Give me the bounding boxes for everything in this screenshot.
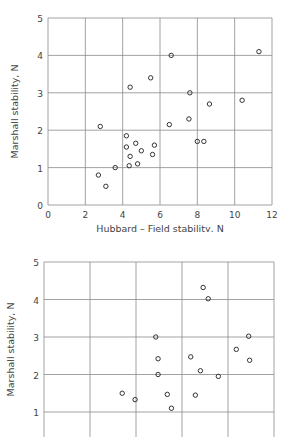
data-point (198, 369, 202, 373)
y-tick-label: 1 (37, 164, 43, 174)
data-point (169, 406, 173, 410)
data-point (152, 143, 156, 147)
data-point (240, 98, 244, 102)
x-tick-label: 0 (45, 210, 51, 220)
scatter-chart-marshall-bottom: 12345Marshall stability, N (0, 232, 296, 437)
x-tick-label: 6 (157, 210, 163, 220)
x-tick-label: 4 (120, 210, 126, 220)
data-point (187, 117, 191, 121)
y-tick-label: 3 (33, 333, 39, 343)
data-point (193, 393, 197, 397)
y-tick-label: 2 (33, 371, 39, 381)
y-tick-label: 5 (37, 14, 43, 24)
data-point (96, 173, 100, 177)
data-point (257, 49, 261, 53)
y-tick-label: 4 (37, 51, 43, 61)
data-point (247, 334, 251, 338)
data-point (104, 184, 108, 188)
data-point (128, 85, 132, 89)
x-tick-label: 12 (266, 210, 277, 220)
y-axis-label: Marshall stability, N (5, 303, 16, 397)
data-point (207, 102, 211, 106)
data-point (247, 358, 251, 362)
data-point (134, 141, 138, 145)
data-point (128, 154, 132, 158)
y-tick-label: 1 (33, 408, 39, 418)
y-tick-label: 2 (37, 126, 43, 136)
scatter-chart-hubbard-vs-marshall: 012345024681012Hubbard – Field stability… (0, 0, 296, 232)
y-axis-label: Marshall stability, N (9, 65, 20, 159)
x-axis-label: Hubbard – Field stability, N (96, 223, 224, 232)
data-point (139, 149, 143, 153)
y-tick-label: 0 (37, 201, 43, 211)
data-point (206, 297, 210, 301)
data-point (124, 145, 128, 149)
x-tick-label: 8 (194, 210, 200, 220)
y-tick-label: 5 (33, 258, 39, 268)
data-point (150, 152, 154, 156)
data-point (135, 162, 139, 166)
x-tick-label: 2 (82, 210, 88, 220)
x-tick-label: 10 (229, 210, 241, 220)
data-point (124, 134, 128, 138)
data-point (202, 139, 206, 143)
y-tick-label: 4 (33, 296, 39, 306)
data-point (189, 355, 193, 359)
data-point (133, 397, 137, 401)
data-point (120, 391, 124, 395)
data-point (98, 124, 102, 128)
data-point (167, 122, 171, 126)
data-point (234, 347, 238, 351)
y-tick-label: 3 (37, 89, 43, 99)
data-point (165, 392, 169, 396)
data-point (201, 285, 205, 289)
data-point (156, 357, 160, 361)
data-point (148, 76, 152, 80)
